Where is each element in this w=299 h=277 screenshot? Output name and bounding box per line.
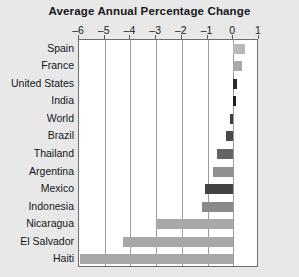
bar [233,79,237,89]
bar [202,202,233,212]
category-label: Haiti [53,253,74,264]
chart-title: Average Annual Percentage Change [0,5,299,17]
category-label: Nicaragua [26,218,74,229]
bar [156,219,233,229]
category-axis-labels: SpainFranceUnited StatesIndiaWorldBrazil… [0,39,74,267]
x-tick-mark [155,35,156,39]
category-label: El Salvador [20,236,74,247]
category-label: United States [11,78,74,89]
x-tick-mark [129,35,130,39]
x-tick-mark [78,35,79,39]
bar [233,44,245,54]
x-tick-mark [181,35,182,39]
category-label: Spain [47,43,74,54]
category-label: France [41,60,74,71]
category-label: Brazil [48,130,74,141]
bars-layer [79,40,257,266]
bar [233,61,242,71]
bar [217,149,234,159]
category-label: Argentina [29,166,74,177]
x-tick-mark [207,35,208,39]
category-label: Indonesia [28,201,74,212]
bar [123,237,234,247]
bar [230,114,233,124]
category-label: Thailand [34,148,74,159]
plot-area [78,39,258,267]
bar [205,184,233,194]
category-label: Mexico [41,183,74,194]
bar [213,167,234,177]
x-axis-tick-labels: –6–5–4–3–2–101 [0,24,299,38]
bar [226,131,234,141]
x-tick-mark [104,35,105,39]
category-label: India [51,95,74,106]
bar-chart: Average Annual Percentage Change –6–5–4–… [0,0,299,277]
x-tick-mark [258,35,259,39]
bar [80,254,233,264]
bar [233,96,236,106]
category-label: World [47,113,74,124]
x-tick-mark [232,35,233,39]
